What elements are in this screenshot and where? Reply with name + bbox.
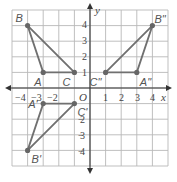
vertex-point bbox=[72, 70, 77, 75]
y-axis-label: y bbox=[94, 4, 100, 16]
svg-text:−: − bbox=[78, 130, 84, 141]
vertex-label: B bbox=[16, 12, 23, 24]
x-axis-left-arrow-icon bbox=[5, 85, 11, 91]
vertex-point bbox=[25, 148, 30, 153]
vertex-label: A" bbox=[139, 76, 152, 88]
vertex-label: B' bbox=[32, 153, 42, 165]
y-tick-4: 4 bbox=[82, 19, 87, 30]
vertex-point bbox=[103, 70, 108, 75]
vertex-label: A bbox=[33, 76, 41, 88]
vertex-label: C' bbox=[77, 106, 88, 118]
y-tick-2: 2 bbox=[82, 51, 87, 62]
triangle-outline bbox=[28, 104, 75, 151]
y-tick-1: 1 bbox=[82, 67, 87, 78]
vertex-point bbox=[41, 70, 46, 75]
vertex-point bbox=[72, 101, 77, 106]
y-tick-3: 3 bbox=[82, 35, 87, 46]
triangle-outline bbox=[28, 26, 75, 73]
vertex-label: C" bbox=[90, 76, 103, 88]
x-tick-1: 1 bbox=[103, 92, 108, 103]
vertex-label: C bbox=[62, 76, 70, 88]
x-axis-label: x bbox=[160, 91, 166, 103]
vertex-label: B" bbox=[154, 13, 166, 25]
vertex-point bbox=[134, 70, 139, 75]
triangle-outline bbox=[106, 26, 153, 73]
x-tick-4: 4 bbox=[150, 92, 155, 103]
y-axis-down-arrow-icon bbox=[87, 168, 93, 174]
x-tick-neg2: −2 bbox=[47, 92, 58, 103]
vertex-point bbox=[41, 101, 46, 106]
svg-text:−: − bbox=[78, 146, 84, 157]
x-tick-3: 3 bbox=[135, 92, 140, 103]
origin-label: O bbox=[79, 91, 87, 103]
x-tick-neg4: −4 bbox=[15, 92, 26, 103]
vertex-label: A' bbox=[27, 98, 38, 110]
triangle-appbppcpp: A"B"C" bbox=[90, 13, 167, 89]
vertex-point bbox=[25, 23, 30, 28]
coordinate-plane: −4 −3 −2 O 1 2 3 4 x y 4 3 2 1 2 3 4 − −… bbox=[0, 0, 177, 182]
x-tick-2: 2 bbox=[119, 92, 124, 103]
y-axis-up-arrow-icon bbox=[87, 3, 93, 9]
triangle-abc: ABC bbox=[16, 12, 77, 89]
x-axis-right-arrow-icon bbox=[166, 85, 172, 91]
